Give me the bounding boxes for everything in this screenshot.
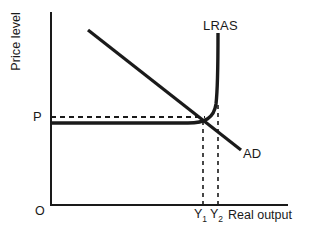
x-axis-label: Real output: [228, 209, 292, 222]
diagram-canvas: [0, 0, 330, 233]
lras-curve-label: LRAS: [203, 19, 238, 32]
y2-tick-subscript: 2: [218, 214, 223, 224]
y2-tick-label: Y2: [210, 208, 223, 223]
y1-tick-label: Y1: [194, 208, 207, 223]
ad-curve-label: AD: [243, 147, 261, 160]
y-axis-label: Price level: [10, 0, 23, 12]
macro-ad-as-diagram: Price level P O LRAS AD Y1 Y2 Real outpu…: [0, 0, 330, 233]
y1-tick-subscript: 1: [202, 214, 207, 224]
price-level-tick-label: P: [33, 110, 42, 123]
y-axis-label-text: Price level: [10, 12, 23, 71]
as-curve: [51, 33, 218, 123]
origin-label: O: [35, 205, 45, 218]
